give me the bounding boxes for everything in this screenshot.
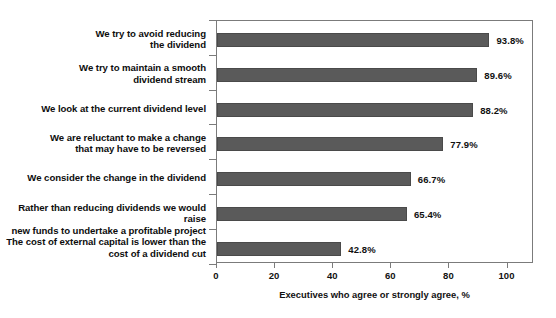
category-label: Rather than reducing dividends we would … bbox=[0, 202, 206, 237]
category-label: We look at the current dividend level bbox=[0, 103, 206, 115]
bar[interactable] bbox=[217, 207, 407, 221]
y-axis-tick bbox=[209, 124, 216, 125]
y-axis-tick bbox=[209, 20, 216, 21]
category-axis-labels: We try to avoid reducing the dividendWe … bbox=[0, 0, 212, 318]
bar-row: 77.9% bbox=[217, 137, 532, 151]
category-label: The cost of external capital is lower th… bbox=[0, 236, 206, 259]
bar[interactable] bbox=[217, 68, 477, 82]
bar[interactable] bbox=[217, 172, 411, 186]
bar-value-label: 88.2% bbox=[480, 104, 507, 115]
bar-row: 89.6% bbox=[217, 68, 532, 82]
y-axis-tick bbox=[209, 194, 216, 195]
x-axis-tick bbox=[274, 263, 275, 268]
x-axis-title: Executives who agree or strongly agree, … bbox=[216, 289, 533, 300]
y-axis-tick bbox=[209, 159, 216, 160]
bar[interactable] bbox=[217, 137, 443, 151]
category-label: We try to maintain a smooth dividend str… bbox=[0, 62, 206, 85]
x-axis-tick bbox=[390, 263, 391, 268]
x-axis-tick-label: 20 bbox=[269, 270, 280, 281]
x-axis-tick bbox=[507, 263, 508, 268]
bar-row: 65.4% bbox=[217, 207, 532, 221]
bar-value-label: 42.8% bbox=[348, 243, 375, 254]
y-axis-tick bbox=[209, 264, 216, 265]
bar[interactable] bbox=[217, 103, 473, 117]
x-axis-tick-label: 60 bbox=[385, 270, 396, 281]
bar[interactable] bbox=[217, 242, 341, 256]
x-axis-tick bbox=[332, 263, 333, 268]
bar-row: 42.8% bbox=[217, 242, 532, 256]
y-axis-tick bbox=[209, 229, 216, 230]
x-axis-tick-label: 100 bbox=[499, 270, 515, 281]
category-label: We consider the change in the dividend bbox=[0, 172, 206, 184]
bar-value-label: 66.7% bbox=[418, 174, 445, 185]
bar-row: 66.7% bbox=[217, 172, 532, 186]
bar-value-label: 89.6% bbox=[484, 69, 511, 80]
y-axis-tick bbox=[209, 55, 216, 56]
bar-row: 93.8% bbox=[217, 33, 532, 47]
x-axis-tick-label: 80 bbox=[443, 270, 454, 281]
bar[interactable] bbox=[217, 33, 489, 47]
y-axis-tick bbox=[209, 90, 216, 91]
x-axis-tick-label: 40 bbox=[327, 270, 338, 281]
x-axis-tick-label: 0 bbox=[213, 270, 218, 281]
x-axis-tick bbox=[216, 263, 217, 268]
category-label: We try to avoid reducing the dividend bbox=[0, 28, 206, 51]
x-axis-tick bbox=[448, 263, 449, 268]
bar-value-label: 65.4% bbox=[414, 209, 441, 220]
bar-row: 88.2% bbox=[217, 103, 532, 117]
plot-area: 93.8%89.6%88.2%77.9%66.7%65.4%42.8% bbox=[216, 20, 533, 263]
bar-chart: We try to avoid reducing the dividendWe … bbox=[0, 0, 556, 318]
bar-value-label: 93.8% bbox=[496, 35, 523, 46]
bar-value-label: 77.9% bbox=[450, 139, 477, 150]
category-label: We are reluctant to make a change that m… bbox=[0, 132, 206, 155]
